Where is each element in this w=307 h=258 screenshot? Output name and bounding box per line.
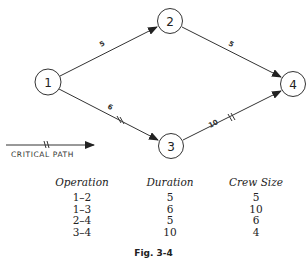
header-crew-size: Crew Size [211,176,301,188]
node-label: 2 [166,15,174,29]
edge-2-4: 5 [182,27,281,77]
node-4: 4 [281,72,306,97]
table-row: 1–2 5 5 [0,191,307,203]
cell-duration: 5 [125,191,215,203]
edge-label-3-4: 10 [207,118,219,130]
edge-1-2: 5 [60,27,157,76]
node-3: 3 [159,134,184,159]
cell-duration: 5 [125,214,215,226]
edge-1-3-critical: 6 [59,89,158,140]
cell-crew-size: 10 [211,203,301,215]
table-header: Operation Duration Crew Size [0,176,307,191]
figure-caption: Fig. 3-4 [0,248,307,258]
table-row: 1–3 6 10 [0,203,307,215]
header-operation: Operation [37,176,127,188]
node-2: 2 [158,9,183,34]
cell-crew-size: 5 [211,191,301,203]
cell-operation: 1–2 [37,191,127,203]
node-label: 1 [44,76,52,90]
node-label: 4 [289,78,297,92]
network-diagram: 5 5 6 10 1 2 3 4 CRITICAL PATH [0,0,307,160]
critical-path-legend: CRITICAL PATH [6,141,94,159]
edge-3-4-critical: 10 [183,91,281,140]
table-row: 3–4 10 4 [0,226,307,238]
edge-label-1-2: 5 [98,39,106,48]
cell-operation: 3–4 [37,226,127,238]
edge-label-1-3: 6 [106,103,114,112]
node-1: 1 [35,69,61,95]
legend-label: CRITICAL PATH [11,150,74,159]
edge-label-2-4: 5 [227,40,235,49]
cell-crew-size: 6 [211,214,301,226]
header-duration: Duration [125,176,215,188]
cell-operation: 2–4 [37,214,127,226]
cell-operation: 1–3 [37,203,127,215]
cell-duration: 10 [125,226,215,238]
cell-duration: 6 [125,203,215,215]
table-row: 2–4 5 6 [0,214,307,226]
node-label: 3 [167,140,175,154]
operations-table: Operation Duration Crew Size 1–2 5 5 1–3… [0,176,307,237]
cell-crew-size: 4 [211,226,301,238]
